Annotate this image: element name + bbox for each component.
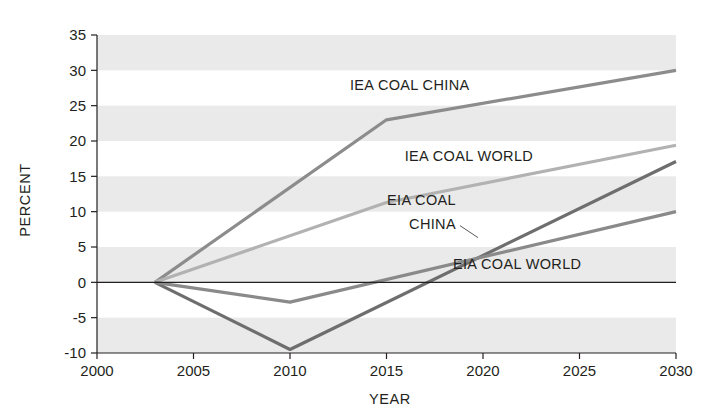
band-stripe-1 [97,106,676,141]
y-tick-label-0: 35 [69,26,86,43]
chart-figure: 35302520151050-5-10 20002005201020152020… [0,0,718,420]
coal-growth-line-chart: 35302520151050-5-10 20002005201020152020… [0,0,718,420]
x-tick-label-0: 2000 [80,362,113,379]
x-axis-ticks: 2000200520102015202020252030 [80,353,692,379]
y-tick-label-2: 25 [69,97,86,114]
y-tick-label-8: -5 [73,309,86,326]
series-label-3: EIA COAL WORLD [453,256,581,272]
band-stripe-4 [97,318,676,353]
y-axis-title: PERCENT [17,163,33,237]
y-tick-label-6: 5 [78,238,86,255]
series-label-0: IEA COAL CHINA [350,77,470,93]
band-stripe-3 [97,247,676,282]
x-tick-label-6: 2030 [659,362,692,379]
x-axis-title: YEAR [369,391,411,407]
y-tick-label-7: 0 [78,274,86,291]
y-axis-ticks: 35302520151050-5-10 [64,26,97,361]
x-tick-label-5: 2025 [563,362,596,379]
series-label-1: IEA COAL WORLD [405,148,533,164]
y-tick-label-9: -10 [64,344,86,361]
y-tick-label-3: 20 [69,132,86,149]
y-tick-label-5: 10 [69,203,86,220]
x-tick-label-3: 2015 [370,362,403,379]
leader-line-2 [460,226,478,238]
series-label-2: EIA COAL [387,192,456,208]
x-tick-label-2: 2010 [273,362,306,379]
y-tick-label-4: 15 [69,168,86,185]
x-tick-label-4: 2020 [466,362,499,379]
series-label-2-line2: CHINA [409,216,456,232]
y-tick-label-1: 30 [69,62,86,79]
band-stripe-0 [97,35,676,70]
x-tick-label-1: 2005 [177,362,210,379]
